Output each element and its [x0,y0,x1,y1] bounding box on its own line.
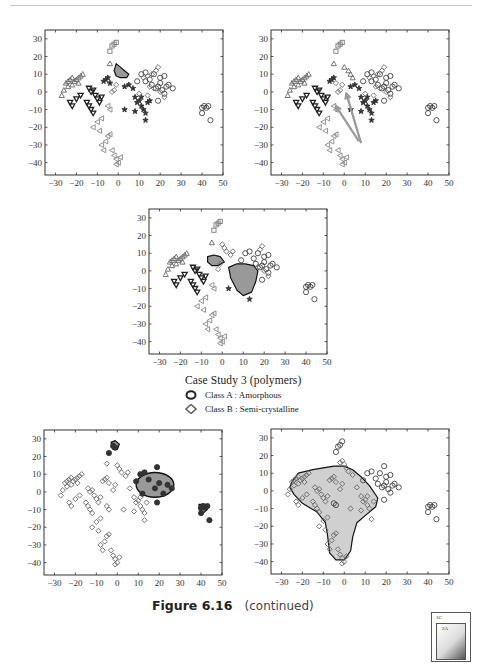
x-tick-label: 0 [116,178,121,188]
x-tick-label: 20 [155,578,165,588]
x-tick-label: 20 [382,577,392,587]
diamond-marker [131,509,136,514]
star-marker [130,85,135,90]
x-tick-label: −20 [68,578,83,588]
y-tick-label: −40 [254,158,269,168]
x-tick-label: 10 [135,178,145,188]
circle-filled-marker [140,491,145,496]
legend: Case Study 3 (polymers) Class A : Amorph… [185,374,301,417]
circle-marker [396,86,401,91]
x-tick-label: 40 [197,578,207,588]
x-tick-label: 10 [239,357,249,367]
y-tick-label: 30 [259,433,269,443]
scatter-plot-top-right: −30−20−10010203040503020100−10−20−30−40 [271,30,449,175]
star-marker [331,75,336,80]
star-marker [358,108,363,113]
diamond-marker [317,524,322,529]
circle-outline-icon [185,390,197,400]
triangle-marker [163,272,168,277]
y-tick-label: −20 [28,122,43,132]
x-tick-label: −30 [152,357,167,367]
y-tick-label: −30 [28,140,43,150]
circle-filled-marker [106,450,111,455]
y-tick-label: 10 [259,468,269,478]
triangle-down-marker [74,97,79,102]
x-tick-label: 0 [342,178,347,188]
triangle-left-marker [101,148,106,153]
diamond-marker [142,518,147,523]
thumbnail-inner-frame: 2A [436,623,466,660]
circle-marker [381,98,386,103]
triangle-left-marker [321,119,326,124]
x-tick-label: 30 [177,178,187,188]
y-tick-label: 0 [37,487,42,497]
x-tick-label: −10 [316,577,331,587]
diamond-marker [144,500,149,505]
triangle-left-marker [97,128,102,133]
triangle-down-marker [317,111,322,116]
x-tick-label: 30 [403,178,413,188]
triangle-left-marker [203,321,208,326]
circle-marker [312,297,317,302]
y-tick-label: −40 [28,158,43,168]
circle-filled-marker [157,480,162,485]
scatter-points [59,40,213,167]
circle-marker [208,118,213,123]
triangle-left-marker [95,119,100,124]
x-tick-label: −10 [316,178,331,188]
x-tick-label: 50 [445,178,455,188]
legend-title: Case Study 3 (polymers) [185,374,301,386]
legend-item-class-a: Class A : Amorphous [185,389,301,401]
circle-marker [251,256,256,261]
diamond-marker [371,93,376,98]
circle-marker [259,277,264,282]
y-tick-label: −20 [27,522,42,532]
triangle-down-marker [195,290,200,295]
diamond-marker [127,486,132,491]
scatter-points [58,443,212,567]
circle-filled-marker [154,500,159,505]
circle-marker [373,476,378,481]
star-marker [139,94,144,99]
circle-filled-marker [207,518,212,523]
y-tick-label: 30 [32,434,42,444]
diamond-marker [60,488,65,493]
triangle-down-marker [91,111,96,116]
circle-filled-marker [113,445,118,450]
y-tick-label: −30 [27,540,42,550]
legend-label: Class B : Semi-crystalline [205,404,299,414]
square-marker [334,49,338,53]
x-tick-label: 30 [281,357,291,367]
circle-marker [381,497,386,502]
triangle-marker [331,61,336,66]
y-tick-label: 30 [259,34,269,44]
triangle-left-marker [91,125,96,130]
y-tick-label: −20 [132,301,147,311]
triangle-down-marker [325,95,330,100]
star-marker [132,94,137,99]
diamond-marker [104,461,109,466]
diamond-marker [102,539,107,544]
circle-marker [303,290,308,295]
arrow-annotation [346,94,361,144]
star-marker [226,286,231,291]
star-marker [126,82,131,87]
y-tick-label: 10 [33,69,43,79]
header-rule [10,5,472,6]
triangle-marker [285,93,290,98]
circle-filled-marker [161,491,166,496]
x-tick-label: 20 [260,357,270,367]
circle-filled-marker [154,465,159,470]
y-tick-label: 20 [33,52,43,62]
triangle-left-marker [323,128,328,133]
y-tick-label: 0 [142,266,147,276]
triangle-left-marker [205,327,210,332]
triangle-down-marker [300,97,305,102]
circle-marker [381,464,386,469]
triangle-left-marker [317,125,322,130]
x-tick-label: −20 [295,577,310,587]
x-tick-label: 50 [445,577,455,587]
legend-label: Class A : Amorphous [205,390,281,400]
y-tick-label: −30 [132,319,147,329]
y-tick-label: −40 [254,557,269,567]
